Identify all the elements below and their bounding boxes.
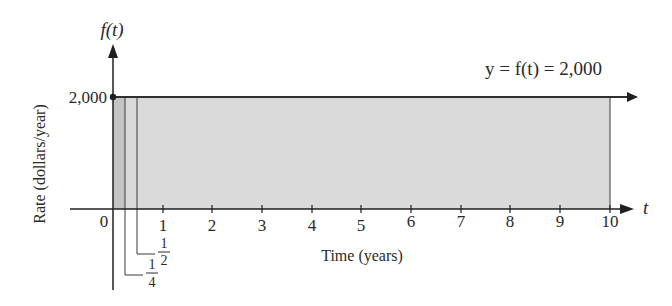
y-axis-symbol: f(t) (100, 19, 123, 41)
x-tick-label: 7 (457, 212, 466, 231)
x-tick-label: 4 (308, 216, 317, 235)
x-axis-title: Time (years) (321, 247, 403, 265)
y-axis-title: Rate (dollars/year) (31, 104, 49, 224)
x-tick-label: 1 (159, 216, 168, 235)
x-tick-label: 3 (258, 216, 267, 235)
fraction-quarter-denominator: 4 (149, 275, 156, 290)
x-axis-symbol: t (643, 197, 649, 218)
x-tick-label: 9 (556, 212, 565, 231)
x-origin-label: 0 (100, 212, 109, 231)
fraction-half-denominator: 2 (161, 253, 168, 268)
fraction-quarter-numerator: 1 (149, 257, 156, 272)
shaded-area (113, 97, 610, 209)
x-tick-label: 8 (506, 212, 515, 231)
x-axis-arrow-icon (620, 204, 634, 214)
x-tick-label: 6 (407, 212, 416, 231)
function-label: y = f(t) = 2,000 (485, 58, 602, 80)
function-arrow-icon (627, 92, 638, 102)
x-tick-label: 5 (357, 216, 366, 235)
rate-chart: 0 1 2 3 4 5 6 7 8 9 10 2,000 1 2 1 4 f(t… (0, 0, 672, 306)
y-tick-label: 2,000 (69, 88, 107, 107)
shaded-strip-first-quarter (113, 97, 125, 209)
fraction-half-numerator: 1 (161, 236, 168, 251)
x-tick-label: 2 (208, 216, 217, 235)
y-axis-arrow-icon (108, 44, 118, 58)
x-tick-label: 10 (602, 212, 619, 231)
